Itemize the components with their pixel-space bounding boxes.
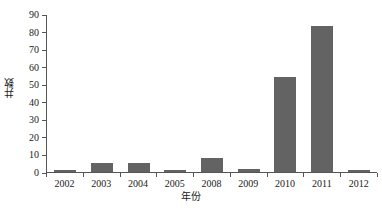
y-axis-tick-label: 60 xyxy=(29,63,42,73)
bar xyxy=(201,158,223,172)
y-axis-tick-label: 10 xyxy=(29,150,42,160)
bar-cell xyxy=(304,15,341,172)
x-axis-tick-label: 2012 xyxy=(340,178,377,190)
y-axis-tick-label: 30 xyxy=(29,115,42,125)
y-axis-tick-label: 70 xyxy=(29,45,42,55)
bar-cell xyxy=(157,15,194,172)
x-axis-tick-mark xyxy=(377,173,378,177)
x-axis-tick-label: 2003 xyxy=(83,178,120,190)
y-axis-tick-label: 50 xyxy=(29,80,42,90)
x-axis-tick-label: 2004 xyxy=(120,178,157,190)
bar-cell xyxy=(230,15,267,172)
bar-series xyxy=(47,15,377,172)
y-axis-tick-label: 80 xyxy=(29,28,42,38)
x-axis-labels: 200220032004200520082009201020112012 xyxy=(46,178,377,190)
x-axis-tick-mark xyxy=(230,173,231,177)
bar-cell xyxy=(120,15,157,172)
x-axis-tick-label: 2002 xyxy=(46,178,83,190)
y-axis-tick-label: 0 xyxy=(34,168,42,178)
x-axis-tick-mark xyxy=(83,173,84,177)
x-axis-tick-label: 2008 xyxy=(193,178,230,190)
y-axis-tick-label: 20 xyxy=(29,133,42,143)
x-axis-tick-mark xyxy=(267,173,268,177)
plot-area xyxy=(46,15,377,173)
x-axis-tick-mark xyxy=(120,173,121,177)
bar xyxy=(164,170,186,172)
bar-cell xyxy=(194,15,231,172)
bar xyxy=(128,163,150,172)
bar xyxy=(348,170,370,172)
bar xyxy=(311,26,333,172)
bar-chart: 井数 0102030405060708090 20022003200420052… xyxy=(0,0,382,211)
bar-cell xyxy=(47,15,84,172)
x-axis-tick-mark xyxy=(46,173,47,177)
bar xyxy=(91,163,113,172)
y-axis-tick-label: 90 xyxy=(29,10,42,20)
x-axis-tick-label: 2005 xyxy=(156,178,193,190)
x-axis-tick-label: 2010 xyxy=(267,178,304,190)
x-axis-tick-label: 2009 xyxy=(230,178,267,190)
x-axis-tick-label: 2011 xyxy=(303,178,340,190)
bar xyxy=(54,170,76,172)
bar-cell xyxy=(340,15,377,172)
bar xyxy=(238,169,260,173)
x-axis-tick-mark xyxy=(193,173,194,177)
y-axis: 0102030405060708090 xyxy=(0,0,46,173)
bar xyxy=(274,77,296,172)
x-axis-tick-mark xyxy=(156,173,157,177)
x-axis-tick-mark xyxy=(303,173,304,177)
x-axis-tick-mark xyxy=(340,173,341,177)
bar-cell xyxy=(267,15,304,172)
y-axis-tick-label: 40 xyxy=(29,98,42,108)
bar-cell xyxy=(84,15,121,172)
x-axis-title: 年份 xyxy=(0,191,382,203)
